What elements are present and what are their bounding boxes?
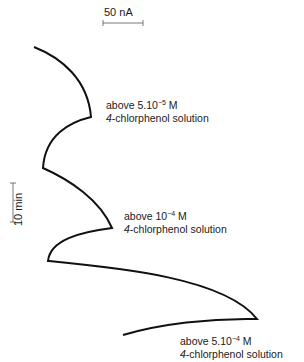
annotation-1: above 5.10−5 M 4-chlorphenol solution (106, 96, 209, 125)
annotation-2: above 10−4 M 4-chlorphenol solution (124, 207, 227, 236)
current-trace (0, 0, 304, 362)
annotation-3: above 5.10−4 M 4-chlorphenol solution (180, 332, 283, 361)
trace-line (34, 47, 257, 335)
current-scale-label: 50 nA (104, 6, 133, 18)
time-scale-label: 10 min (12, 193, 24, 226)
